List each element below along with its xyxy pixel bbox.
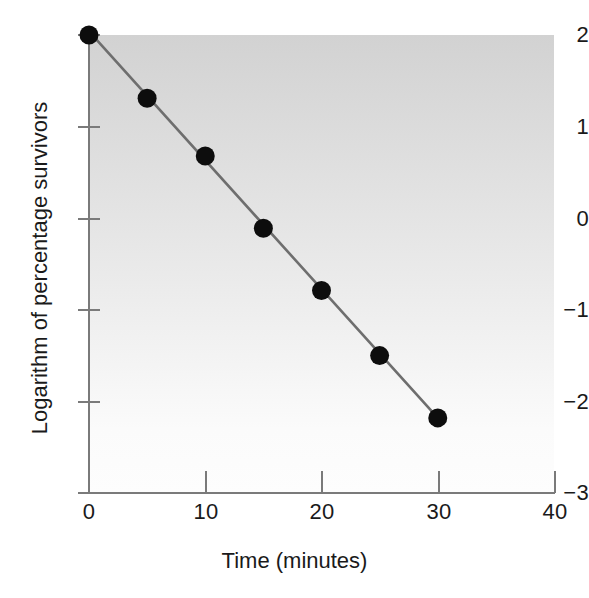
x-tick-label-40: 40 — [520, 500, 589, 524]
y-tick-label-neg1: −1 — [527, 299, 589, 321]
x-tick-40 — [554, 471, 556, 493]
y-tick-label-neg2: −2 — [527, 391, 589, 413]
x-tick-label-0: 0 — [54, 500, 124, 524]
y-axis-line — [88, 35, 90, 494]
y-tick-neg2 — [78, 401, 100, 403]
x-tick-20 — [321, 471, 323, 493]
x-tick-0 — [88, 471, 90, 493]
y-tick-2 — [78, 34, 100, 36]
y-tick-label-2: 2 — [527, 24, 589, 46]
x-tick-30 — [438, 471, 440, 493]
y-axis-title-wrapper: Logarithm of percentage survivors — [27, 68, 53, 468]
x-tick-label-20: 20 — [287, 500, 357, 524]
x-tick-10 — [205, 471, 207, 493]
x-tick-label-30: 30 — [404, 500, 474, 524]
y-tick-label-1: 1 — [527, 116, 589, 138]
x-tick-label-10: 10 — [171, 500, 241, 524]
y-tick-label-0: 0 — [527, 208, 589, 230]
y-tick-1 — [78, 126, 100, 128]
x-axis-title: Time (minutes) — [0, 548, 589, 574]
y-tick-0 — [78, 218, 100, 220]
chart-figure: 2 1 0 −1 −2 −3 0 10 20 30 40 Time (minut… — [0, 0, 589, 598]
y-axis-title: Logarithm of percentage survivors — [27, 102, 52, 435]
plot-background — [89, 35, 554, 493]
y-tick-neg1 — [78, 309, 100, 311]
